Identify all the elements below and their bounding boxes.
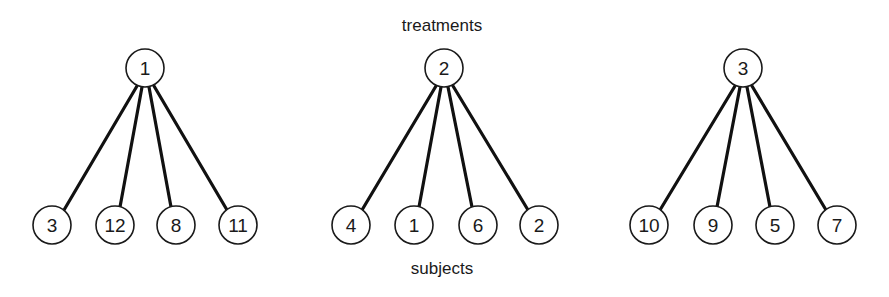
edge <box>154 86 227 210</box>
subject-node-label: 2 <box>534 215 545 236</box>
edge <box>717 87 740 207</box>
edge <box>419 87 441 207</box>
treatment-node: 2 <box>425 49 463 87</box>
treatment-node-label: 2 <box>439 58 450 79</box>
subject-node: 10 <box>630 206 668 244</box>
edge <box>448 87 472 207</box>
subject-node: 11 <box>219 206 257 244</box>
subject-node-label: 9 <box>708 215 719 236</box>
subject-node: 6 <box>459 206 497 244</box>
treatment-group-3: 3 10 9 5 7 <box>630 49 856 244</box>
edge <box>752 86 826 210</box>
subject-node: 7 <box>818 206 856 244</box>
subject-node-label: 12 <box>104 215 125 236</box>
treatment-subject-diagram: treatments 1 3 12 8 11 <box>0 0 889 297</box>
treatment-group-2: 2 4 1 6 2 <box>332 49 558 244</box>
subject-node: 9 <box>694 206 732 244</box>
edge <box>453 86 528 210</box>
subject-node: 3 <box>33 206 71 244</box>
edge <box>747 87 770 207</box>
treatment-node: 1 <box>126 49 164 87</box>
subject-node-label: 7 <box>832 215 843 236</box>
edge <box>149 87 171 207</box>
subject-node: 2 <box>520 206 558 244</box>
subject-node-label: 5 <box>770 215 781 236</box>
edge <box>120 87 142 207</box>
subject-node-label: 4 <box>346 215 357 236</box>
edge <box>64 86 137 210</box>
subject-node-label: 10 <box>638 215 659 236</box>
subject-node: 12 <box>96 206 134 244</box>
subject-node: 4 <box>332 206 370 244</box>
treatment-node-label: 3 <box>738 58 749 79</box>
subject-node-label: 3 <box>47 215 58 236</box>
subject-node-label: 1 <box>409 215 420 236</box>
subjects-label: subjects <box>411 259 473 278</box>
subject-node: 5 <box>756 206 794 244</box>
subject-node: 8 <box>157 206 195 244</box>
subject-node-label: 6 <box>473 215 484 236</box>
subject-node-label: 8 <box>171 215 182 236</box>
treatment-node: 3 <box>724 49 762 87</box>
edge <box>660 86 735 210</box>
subject-node-label: 11 <box>228 215 248 236</box>
subject-node: 1 <box>395 206 433 244</box>
edge <box>362 86 436 210</box>
treatment-group-1: 1 3 12 8 11 <box>33 49 257 244</box>
treatments-label: treatments <box>402 16 482 35</box>
treatment-node-label: 1 <box>140 58 151 79</box>
